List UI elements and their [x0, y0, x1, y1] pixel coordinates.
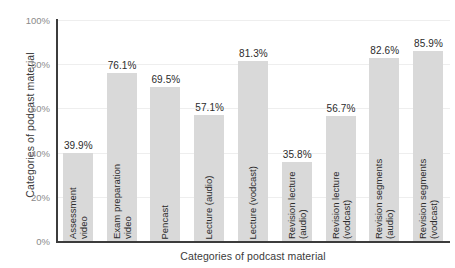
x-axis-category-label: Pencast [150, 147, 180, 239]
x-axis-category-label: Revision segments(audio) [369, 147, 399, 239]
x-axis-category-label: Exam preparationvideo [107, 147, 137, 239]
y-axis-tick-label: 20% [4, 191, 50, 202]
y-axis-tick-label: 100% [4, 15, 50, 26]
x-axis-category-label: Lecture (vodcast) [238, 147, 268, 239]
x-axis-category-label: Lecture (audio) [194, 147, 224, 239]
bar-group[interactable]: 35.8%Revision lecture(audio) [282, 20, 312, 241]
bar-group[interactable]: 56.7%Revision lecture(vodcast) [326, 20, 356, 241]
bar-value-label: 81.3% [239, 48, 268, 59]
y-axis-tick-label: 60% [4, 103, 50, 114]
bar-group[interactable]: 39.9%Assessmentvideo [63, 20, 93, 241]
y-axis-tick-label: 40% [4, 147, 50, 158]
bar-group[interactable]: 81.3%Lecture (vodcast) [238, 20, 268, 241]
bar-chart: Categories of podcast material 0%20%40%6… [0, 0, 455, 268]
bar-value-label: 85.9% [414, 38, 443, 49]
bar-value-label: 76.1% [108, 60, 137, 71]
y-axis-ticks: 0%20%40%60%80%100% [0, 20, 50, 241]
bar-value-label: 56.7% [327, 103, 356, 114]
bar-value-label: 69.5% [151, 74, 180, 85]
x-axis-category-label: Revision segments(vodcast) [413, 147, 443, 239]
x-axis-category-label: Revision lecture(audio) [282, 147, 312, 239]
bar-group[interactable]: 69.5%Pencast [150, 20, 180, 241]
y-axis-tick-label: 80% [4, 59, 50, 70]
bar-value-label: 57.1% [195, 102, 224, 113]
bar-group[interactable]: 76.1%Exam preparationvideo [107, 20, 137, 241]
x-axis-category-label: Assessmentvideo [63, 147, 93, 239]
x-axis-line [56, 241, 450, 243]
bar-group[interactable]: 82.6%Revision segments(audio) [369, 20, 399, 241]
bar-group[interactable]: 57.1%Lecture (audio) [194, 20, 224, 241]
bar-value-label: 82.6% [370, 45, 399, 56]
bar-group[interactable]: 85.9%Revision segments(vodcast) [413, 20, 443, 241]
y-axis-tick-label: 0% [4, 236, 50, 247]
x-axis-title: Categories of podcast material [55, 250, 451, 262]
x-axis-category-label: Revision lecture(vodcast) [326, 147, 356, 239]
bars-container: 39.9%Assessmentvideo76.1%Exam preparatio… [56, 20, 450, 241]
